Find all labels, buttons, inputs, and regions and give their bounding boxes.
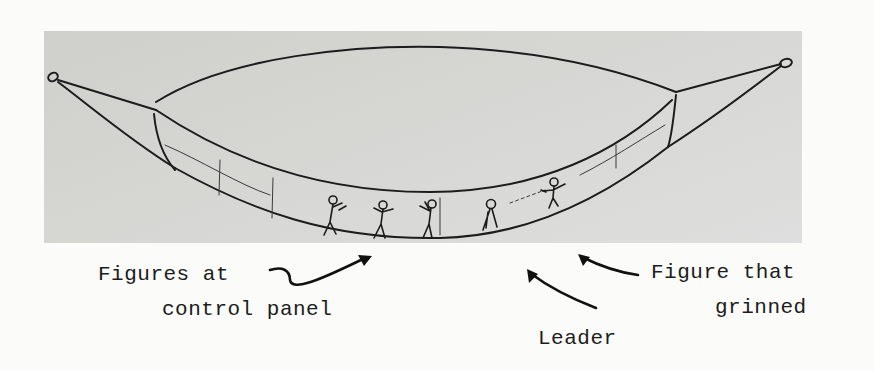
stick-figure-2: [374, 201, 393, 238]
left-end-knob: [47, 71, 60, 83]
label-control-panel: control panel: [162, 297, 332, 323]
grinning-figure: [541, 178, 565, 208]
leader-figure: [483, 200, 497, 231]
label-figure-that: Figure that: [651, 260, 795, 286]
hull-band-top: [156, 100, 672, 192]
label-grinned: grinned: [715, 295, 807, 321]
arrow-to-leader: [530, 273, 596, 308]
arrow-to-grinning-figure: [582, 257, 638, 275]
craft-top-outline: [156, 47, 676, 102]
stick-figure-3: [420, 200, 436, 238]
label-figures-at: Figures at: [98, 262, 229, 288]
label-leader: Leader: [538, 326, 617, 352]
arrow-to-control-panel: [270, 258, 365, 285]
